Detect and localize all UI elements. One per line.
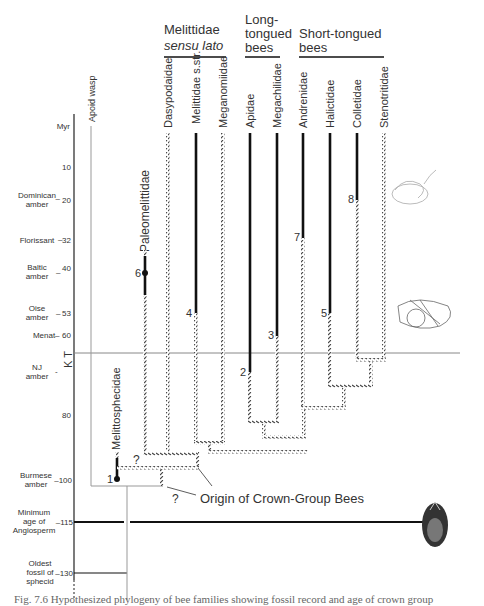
axis-ticks: 10 20 – Dominican amber 32 Florissant – … xyxy=(13,163,74,586)
tick-115: –115 xyxy=(56,518,74,527)
tick-label-sphecid-3: sphecid xyxy=(26,577,54,586)
tick-label-angio-1: Minimum xyxy=(18,508,51,517)
group-long-tongued-line1: Long- xyxy=(245,12,278,27)
fossil-number-1: 1 xyxy=(107,473,113,485)
fossil-number-4: 4 xyxy=(186,307,192,319)
tick-label-florissant: Florissant xyxy=(20,236,55,245)
tick-10: 10 xyxy=(62,163,71,172)
group-short-tongued-line1: Short-tongued xyxy=(299,26,381,41)
group-long-tongued-header: Long- tongued bees xyxy=(245,12,292,57)
fossil-number-5: 5 xyxy=(321,307,327,319)
kt-boundary-label: K T xyxy=(62,351,74,368)
tick-label-sphecid-2: fossil of xyxy=(26,568,54,577)
fossil-number-3: 3 xyxy=(268,329,274,341)
bee-phylogeny-diagram: Melittidae sensu lato Long- tongued bees… xyxy=(0,0,484,606)
question-mark-2: ? xyxy=(172,492,179,506)
outgroup-apoid-wasp xyxy=(91,126,163,600)
taxon-label-colletidae: Colletidae xyxy=(351,79,363,128)
tick-32: 32 xyxy=(62,236,71,245)
tick-label-sphecid-1: Oldest xyxy=(28,559,52,568)
taxon-label-meganomiidae: Meganomiidae xyxy=(217,56,229,128)
tick-label-baltic-2: amber xyxy=(26,272,49,281)
extinct-label-paleomelittidae: Paleomelittidae xyxy=(138,170,152,252)
tick-label-dominican-1: Dominican xyxy=(18,191,56,200)
taxon-label-apidae: Apidae xyxy=(244,94,256,128)
tick-20: 20 xyxy=(62,196,71,205)
tick-60: 60 xyxy=(62,331,71,340)
tick-53: 53 xyxy=(62,309,71,318)
question-mark-1: ? xyxy=(133,453,140,467)
tick-label-burmese-2: amber xyxy=(25,480,48,489)
tick-label-oise-2: amber xyxy=(26,313,49,322)
tick-label-baltic-1: Baltic xyxy=(27,263,47,272)
taxon-label-megachilidae: Megachilidae xyxy=(271,63,283,128)
group-short-tongued-line2: bees xyxy=(299,40,328,55)
fossil-illustration-dominican xyxy=(392,170,436,204)
tick-80: 80 xyxy=(62,411,71,420)
tick-dash: - xyxy=(55,367,58,376)
tick-label-angio-2: age of xyxy=(23,517,46,526)
group-long-tongued-line2: tongued xyxy=(245,26,292,41)
tick-label-angio-3: Angiosperm xyxy=(13,526,56,535)
group-long-tongued-line3: bees xyxy=(245,40,274,55)
fossil-number-8: 8 xyxy=(348,193,354,205)
tick-label-oise-1: Oise xyxy=(29,304,46,313)
time-axis: Myr 10 20 – Dominican amber 32 Florissan… xyxy=(13,114,460,600)
tick-label-nj-2: amber xyxy=(26,372,49,381)
outgroup-label-apoid-wasp: Apoid wasp xyxy=(87,75,97,122)
tick-label-dominican: – xyxy=(56,194,61,203)
fossil-number-7: 7 xyxy=(294,231,300,243)
fossil-number-6: 6 xyxy=(135,267,141,279)
fossil-illustration-oise xyxy=(398,300,451,328)
taxon-label-halictidae: Halictidae xyxy=(324,80,336,128)
group-short-tongued-header: Short-tongued bees xyxy=(299,26,384,57)
tick-40: 40 xyxy=(62,264,71,273)
taxon-label-andrenidae: Andrenidae xyxy=(297,72,309,128)
tick-dash: – xyxy=(56,268,61,277)
figure-caption: Fig. 7.6 Hypothesized phylogeny of bee f… xyxy=(14,593,433,605)
tick-130: –130 xyxy=(55,569,73,578)
tick-dash: – xyxy=(56,309,61,318)
amber-specimen-image xyxy=(422,502,448,547)
tick-label-menat: Menat xyxy=(33,331,56,340)
axis-unit-myr: Myr xyxy=(57,122,71,131)
taxon-label-stenotritidae: Stenotritidae xyxy=(378,66,390,128)
fossil-number-2: 2 xyxy=(240,366,246,378)
tick-100: –100 xyxy=(54,476,72,485)
extinct-label-melittosphecidae: Melittosphecidae xyxy=(110,367,122,450)
tick-label-burmese-1: Burmese xyxy=(20,471,53,480)
tick-dash: – xyxy=(55,331,60,340)
origin-crown-group-label: Origin of Crown-Group Bees xyxy=(200,491,365,506)
taxon-label-dasypodaidae: Dasypodaidae xyxy=(162,58,174,128)
tick-dash: – xyxy=(58,235,63,244)
group-melittidae-line1: Melittidae xyxy=(164,22,220,37)
tick-label-nj-1: NJ xyxy=(32,363,42,372)
fossil-ranges xyxy=(117,133,357,478)
tick-label-dominican-2: amber xyxy=(26,200,49,209)
taxon-label-melittidae-sstr: Melittidae s.str. xyxy=(190,51,202,124)
